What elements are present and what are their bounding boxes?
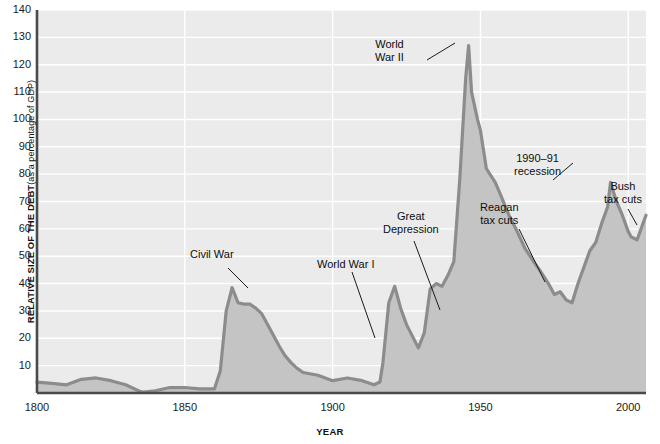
x-axis-tick-label: 1800: [7, 401, 67, 413]
y-axis-tick-label: 70: [0, 196, 31, 207]
annotation-great-depression: Great Depression: [383, 210, 439, 235]
y-axis-tick-label: 80: [0, 168, 31, 179]
y-axis-tick-label: 120: [0, 59, 31, 70]
y-axis-tick-label: 60: [0, 223, 31, 234]
annotation-bush-tax-cuts: Bush tax cuts: [604, 180, 642, 205]
y-axis-tick-label: 20: [0, 332, 31, 343]
x-axis-title: YEAR: [0, 426, 660, 437]
debt-gdp-chart-figure: RELATIVE SIZE OF THE DEBT(as a percentag…: [0, 0, 660, 444]
y-axis-tick-label: 10: [0, 360, 31, 371]
annotation-recession-1990-91: 1990–91 recession: [514, 152, 561, 177]
y-axis-tick-label: 130: [0, 31, 31, 42]
annotation-world-war-1: World War I: [317, 258, 374, 271]
y-axis-tick-label: 50: [0, 250, 31, 261]
plot-canvas: [0, 0, 660, 444]
x-axis-tick-label: 1900: [303, 401, 363, 413]
y-axis-tick-label: 140: [0, 4, 31, 15]
y-axis-tick-label: 40: [0, 278, 31, 289]
annotation-reagan-tax-cuts: Reagan tax cuts: [480, 201, 519, 226]
x-axis-tick-label: 1850: [155, 401, 215, 413]
annotation-world-war-2: World War II: [375, 38, 404, 63]
x-axis-tick-label: 1950: [450, 401, 510, 413]
y-axis-tick-label: 100: [0, 113, 31, 124]
y-axis-tick-label: 110: [0, 86, 31, 97]
x-axis-tick-label: 2000: [598, 401, 658, 413]
annotation-civil-war: Civil War: [190, 248, 234, 261]
y-axis-tick-label: 90: [0, 141, 31, 152]
y-axis-tick-label: 30: [0, 305, 31, 316]
